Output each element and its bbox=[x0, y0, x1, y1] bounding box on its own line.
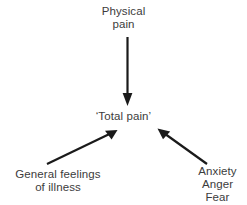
node-label-general-feelings-of-illness: General feelings of illness bbox=[4, 168, 112, 194]
node-label-physical-pain: Physical pain bbox=[0, 5, 247, 31]
arrow-shaft-left-diagonal bbox=[47, 134, 111, 165]
node-label-anxiety-anger-fear-line-1: Anxiety bbox=[188, 165, 247, 178]
node-label-physical-pain-line-1: Physical bbox=[0, 5, 247, 18]
node-label-total-pain-line-1: ‘Total pain’ bbox=[0, 110, 247, 123]
node-label-general-feelings-line-1: General feelings bbox=[4, 168, 112, 181]
arrow-general-feelings-to-total-pain bbox=[47, 130, 118, 164]
node-label-physical-pain-line-2: pain bbox=[0, 18, 247, 31]
arrow-anxiety-anger-fear-to-total-pain bbox=[158, 129, 208, 165]
arrow-head-up-left-icon bbox=[158, 129, 171, 140]
arrow-shaft-right-diagonal bbox=[165, 134, 208, 165]
node-label-total-pain: ‘Total pain’ bbox=[0, 110, 247, 123]
arrow-physical-pain-to-total-pain bbox=[123, 37, 133, 106]
node-label-general-feelings-line-2: of illness bbox=[4, 181, 112, 194]
node-label-anxiety-anger-fear: Anxiety Anger Fear bbox=[188, 165, 247, 204]
diagram-canvas: Physical pain ‘Total pain’ General feeli… bbox=[0, 0, 247, 205]
node-label-anxiety-anger-fear-line-3: Fear bbox=[188, 191, 247, 204]
arrow-head-down-icon bbox=[123, 93, 133, 106]
node-label-anxiety-anger-fear-line-2: Anger bbox=[188, 178, 247, 191]
